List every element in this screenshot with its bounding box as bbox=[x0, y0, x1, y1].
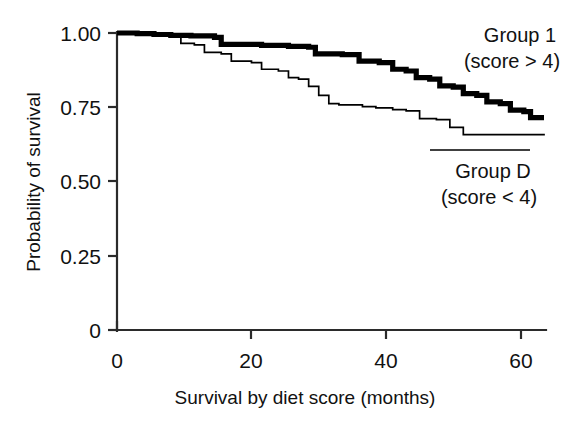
x-tick-label-40: 40 bbox=[374, 349, 397, 372]
x-axis-title: Survival by diet score (months) bbox=[175, 387, 436, 408]
legend-group-d-criteria: (score < 4) bbox=[441, 186, 537, 208]
y-tick-label-0-75: 0.75 bbox=[60, 96, 101, 119]
legend-group-1-criteria: (score > 4) bbox=[464, 50, 560, 72]
x-tick-label-0: 0 bbox=[111, 349, 123, 372]
x-tick-label-60: 60 bbox=[509, 349, 532, 372]
y-tick-label-1-00: 1.00 bbox=[60, 22, 101, 45]
y-tick-label-0-50: 0.50 bbox=[60, 170, 101, 193]
legend-group-d-name: Group D bbox=[455, 160, 531, 182]
y-tick-label-0: 0 bbox=[89, 319, 101, 342]
survival-curve-figure: 1.00 0.75 0.50 0.25 0 0 20 40 60 Probabi… bbox=[0, 0, 586, 429]
y-tick-label-0-25: 0.25 bbox=[60, 245, 101, 268]
survival-curve-group-1 bbox=[117, 33, 544, 118]
y-axis-title: Probability of survival bbox=[23, 92, 44, 272]
x-tick-label-20: 20 bbox=[239, 349, 262, 372]
legend-group-1-name: Group 1 bbox=[484, 24, 556, 46]
survival-curve-group-d bbox=[117, 33, 544, 135]
